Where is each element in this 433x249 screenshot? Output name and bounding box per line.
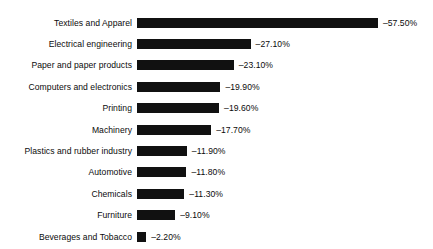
value-label: –23.10%: [239, 60, 273, 70]
bar-row: Electrical engineering–27.10%: [0, 33, 433, 54]
category-label: Machinery: [0, 125, 132, 135]
bar-row: Automotive–11.80%: [0, 162, 433, 183]
bar: [137, 146, 187, 156]
value-label: –9.10%: [180, 210, 209, 220]
bar: [137, 60, 234, 70]
value-label: –11.30%: [189, 189, 223, 199]
value-label: –11.80%: [191, 167, 225, 177]
bar-area: –11.90%: [137, 140, 433, 161]
bar: [137, 189, 184, 199]
bar-area: –2.20%: [137, 226, 433, 247]
bar: [137, 82, 220, 92]
value-label: –19.90%: [225, 82, 259, 92]
value-label: –19.60%: [224, 103, 258, 113]
bar-row: Textiles and Apparel–57.50%: [0, 12, 433, 33]
bar-area: –23.10%: [137, 55, 433, 76]
bar: [137, 103, 219, 113]
category-label: Automotive: [0, 167, 132, 177]
bar-area: –11.80%: [137, 162, 433, 183]
bar-row: Chemicals–11.30%: [0, 183, 433, 204]
bar: [137, 167, 186, 177]
value-label: –27.10%: [256, 39, 290, 49]
category-label: Plastics and rubber industry: [0, 146, 132, 156]
bar: [137, 125, 211, 135]
bar-row: Furniture–9.10%: [0, 205, 433, 226]
bar-row: Printing–19.60%: [0, 98, 433, 119]
bar-area: –17.70%: [137, 119, 433, 140]
bar: [137, 232, 146, 242]
bar-area: –57.50%: [137, 12, 433, 33]
bar-chart: Textiles and Apparel–57.50%Electrical en…: [0, 0, 433, 249]
value-label: –2.20%: [151, 232, 180, 242]
category-label: Printing: [0, 103, 132, 113]
category-label: Beverages and Tobacco: [0, 232, 132, 242]
bar-rows: Textiles and Apparel–57.50%Electrical en…: [0, 12, 433, 247]
category-label: Paper and paper products: [0, 60, 132, 70]
category-label: Furniture: [0, 210, 132, 220]
bar-row: Paper and paper products–23.10%: [0, 55, 433, 76]
bar-area: –19.60%: [137, 98, 433, 119]
bar-area: –27.10%: [137, 33, 433, 54]
bar: [137, 39, 251, 49]
value-label: –57.50%: [383, 18, 417, 28]
bar-area: –19.90%: [137, 76, 433, 97]
bar-row: Computers and electronics–19.90%: [0, 76, 433, 97]
bar-area: –9.10%: [137, 205, 433, 226]
bar-row: Beverages and Tobacco–2.20%: [0, 226, 433, 247]
bar-row: Plastics and rubber industry–11.90%: [0, 140, 433, 161]
bar: [137, 18, 378, 28]
category-label: Computers and electronics: [0, 82, 132, 92]
category-label: Textiles and Apparel: [0, 18, 132, 28]
value-label: –11.90%: [192, 146, 226, 156]
category-label: Electrical engineering: [0, 39, 132, 49]
bar-area: –11.30%: [137, 183, 433, 204]
value-label: –17.70%: [216, 125, 250, 135]
bar: [137, 210, 175, 220]
bar-row: Machinery–17.70%: [0, 119, 433, 140]
category-label: Chemicals: [0, 189, 132, 199]
